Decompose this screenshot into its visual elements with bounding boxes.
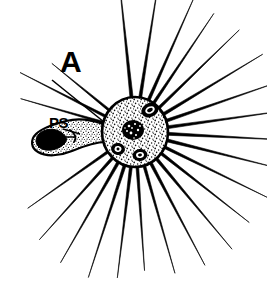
protist-line-drawing: A PS — [0, 0, 267, 284]
cell-body — [102, 97, 168, 167]
figure-canvas: A PS — [0, 0, 267, 284]
panel-label: A — [60, 45, 82, 78]
part-label-ps: PS — [49, 114, 69, 131]
nucleus — [122, 120, 144, 140]
nucleus-mass — [122, 120, 144, 140]
